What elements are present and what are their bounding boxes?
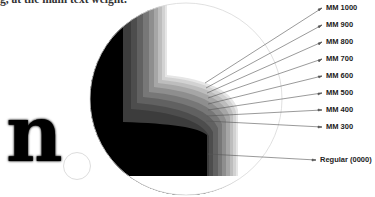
label-mm-500: MM 500 [326,88,353,97]
label-regular: Regular (0000) [320,155,372,164]
label-mm-900: MM 900 [326,20,353,29]
label-mm-400: MM 400 [326,105,353,114]
label-mm-300: MM 300 [326,122,353,131]
label-mm-800: MM 800 [326,37,353,46]
weight-axis-diagram [0,0,375,197]
label-mm-600: MM 600 [326,71,353,80]
label-mm-1000: MM 1000 [326,3,357,12]
magnified-stroke-layers [0,0,375,197]
label-mm-700: MM 700 [326,54,353,63]
